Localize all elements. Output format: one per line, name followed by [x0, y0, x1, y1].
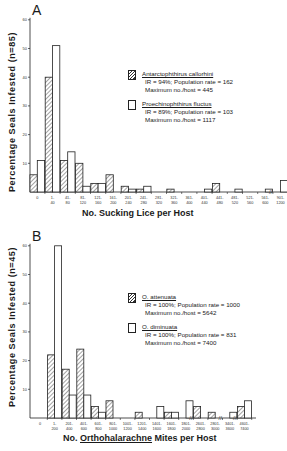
- x-axis-title-b: No. Orthohalarachne Mites per Host: [63, 433, 217, 443]
- svg-text:320: 320: [156, 201, 162, 205]
- svg-text://: //: [189, 415, 193, 421]
- panel-label-b: B: [32, 228, 41, 244]
- svg-text:1800: 1800: [167, 427, 175, 431]
- legend-b: O. attenuata IR = 100%; Population rate …: [128, 293, 240, 353]
- svg-text:1600: 1600: [153, 427, 161, 431]
- svg-text:801-: 801-: [109, 422, 117, 426]
- svg-text:240: 240: [125, 201, 131, 205]
- svg-text:441-: 441-: [216, 196, 224, 200]
- legend-stat: Maximum no./host = 5642: [142, 309, 240, 317]
- panel-label-a: A: [32, 2, 41, 18]
- svg-text:360: 360: [171, 201, 177, 205]
- legend-species: Proechinophthirus fluctus: [142, 100, 233, 108]
- legend-stat: IR = 100%; Population rate = 1000: [142, 301, 240, 309]
- svg-text:481-: 481-: [231, 196, 239, 200]
- svg-text:161-: 161-: [109, 196, 117, 200]
- svg-text:1401-: 1401-: [152, 422, 162, 426]
- legend-entry-a-hatched: Antarctophthirus callorhini IR = 94%; Po…: [128, 70, 233, 94]
- svg-text:3600: 3600: [226, 427, 234, 431]
- svg-text:560: 560: [247, 201, 253, 205]
- legend-stat: IR = 89%; Population rate = 103: [142, 108, 233, 116]
- legend-entry-b-hatched: O. attenuata IR = 100%; Population rate …: [128, 293, 240, 317]
- svg-text:10: 10: [23, 387, 28, 392]
- svg-text:1201-: 1201-: [137, 422, 147, 426]
- svg-text:1000: 1000: [109, 427, 117, 431]
- svg-text:521-: 521-: [246, 196, 254, 200]
- svg-text:401-: 401-: [80, 422, 88, 426]
- svg-text:0: 0: [36, 196, 38, 200]
- legend-species: O. attenuata: [142, 293, 240, 301]
- legend-stat: Maximum no./host = 7400: [142, 339, 240, 347]
- svg-text:1-: 1-: [53, 422, 57, 426]
- svg-text://: //: [219, 415, 223, 421]
- svg-text:280: 280: [141, 201, 147, 205]
- svg-text:10: 10: [23, 161, 28, 166]
- svg-text:600: 600: [262, 201, 268, 205]
- svg-text:1400: 1400: [138, 427, 146, 431]
- svg-text:40: 40: [50, 201, 54, 205]
- svg-text:561-: 561-: [261, 196, 269, 200]
- svg-text:50: 50: [23, 46, 28, 51]
- svg-text:2801-: 2801-: [210, 422, 220, 426]
- legend-stat: IR = 100%; Population rate = 831: [142, 331, 240, 339]
- legend-stat: Maximum no./host = 445: [142, 86, 233, 94]
- y-axis-title-b: Percentage Seals Infested (n=45): [7, 247, 17, 407]
- svg-text:480: 480: [217, 201, 223, 205]
- svg-text:241-: 241-: [140, 196, 148, 200]
- open-swatch-icon: [128, 323, 136, 333]
- hatched-swatch-icon: [128, 293, 136, 303]
- svg-text:7400: 7400: [240, 427, 248, 431]
- svg-text:81-: 81-: [80, 196, 86, 200]
- svg-text:1-: 1-: [51, 196, 55, 200]
- svg-text:440: 440: [201, 201, 207, 205]
- svg-text:40: 40: [23, 301, 28, 306]
- svg-text:201-: 201-: [65, 422, 73, 426]
- y-axis-title-a: Percentage Seals Infested (n=85): [7, 32, 17, 192]
- svg-text:30: 30: [23, 103, 28, 108]
- svg-text:160: 160: [95, 201, 101, 205]
- xlabel-genus: Orthohalarachne: [80, 433, 152, 443]
- svg-text:901-: 901-: [277, 196, 285, 200]
- legend-species: Antarctophthirus callorhini: [142, 70, 233, 78]
- svg-text:200: 200: [51, 427, 57, 431]
- svg-text:20: 20: [23, 132, 28, 137]
- svg-text:200: 200: [110, 201, 116, 205]
- svg-text:1001-: 1001-: [123, 422, 133, 426]
- svg-text:400: 400: [66, 427, 72, 431]
- svg-text:281-: 281-: [155, 196, 163, 200]
- legend-stat: Maximum no./host = 1117: [142, 116, 233, 124]
- svg-text:2000: 2000: [182, 427, 190, 431]
- svg-text:2601-: 2601-: [196, 422, 206, 426]
- open-swatch-icon: [128, 100, 136, 110]
- svg-text:400: 400: [186, 201, 192, 205]
- xlabel-text: No.: [63, 433, 80, 443]
- svg-text:3000: 3000: [211, 427, 219, 431]
- legend-entry-a-open: Proechinophthirus fluctus IR = 89%; Popu…: [128, 100, 233, 124]
- svg-text:40: 40: [23, 75, 28, 80]
- xlabel-text: Mites per Host: [152, 433, 217, 443]
- hatched-swatch-icon: [128, 70, 136, 80]
- svg-text:1200: 1200: [123, 427, 131, 431]
- svg-text:60: 60: [23, 17, 28, 22]
- svg-text:201-: 201-: [125, 196, 133, 200]
- svg-text:800: 800: [95, 427, 101, 431]
- panel-b: B Percentage Seals Infested (n=45) 10203…: [0, 225, 287, 451]
- svg-text:120: 120: [80, 201, 86, 205]
- svg-text:401-: 401-: [201, 196, 209, 200]
- legend-a: Antarctophthirus callorhini IR = 94%; Po…: [128, 70, 233, 130]
- svg-text://: //: [269, 189, 273, 195]
- svg-text:20: 20: [23, 358, 28, 363]
- legend-species: O. diminuata: [142, 323, 240, 331]
- svg-text:80: 80: [66, 201, 70, 205]
- svg-text:60: 60: [23, 243, 28, 248]
- svg-text:1200: 1200: [276, 201, 284, 205]
- legend-stat: IR = 94%; Population rate = 162: [142, 78, 233, 86]
- svg-text://: //: [233, 415, 237, 421]
- svg-text:30: 30: [23, 329, 28, 334]
- x-axis-title-a: No. Sucking Lice per Host: [82, 208, 194, 218]
- svg-text:4601-: 4601-: [240, 422, 250, 426]
- svg-text:600: 600: [81, 427, 87, 431]
- legend-entry-b-open: O. diminuata IR = 100%; Population rate …: [128, 323, 240, 347]
- svg-text:1801-: 1801-: [181, 422, 191, 426]
- svg-text:361-: 361-: [185, 196, 193, 200]
